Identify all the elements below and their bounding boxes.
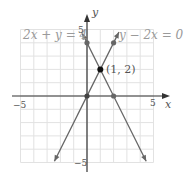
y-axis-label: y (91, 6, 99, 19)
y-max-label: 5 (78, 25, 84, 35)
intersection-point (97, 66, 103, 72)
x-axis-label: x (165, 98, 172, 111)
x-max-label: 5 (150, 98, 156, 108)
point-0-0 (84, 93, 89, 98)
x-min-label: −5 (13, 100, 27, 110)
y-min-label: −5 (74, 158, 88, 168)
point-2-4 (111, 40, 116, 45)
point-2-0 (111, 93, 116, 98)
y-axis-arrow-icon (84, 14, 90, 22)
graph: 2x + y = 4 y − 2x = 0 (1, 2) x y −5 5 5 … (0, 0, 187, 181)
eq2-label: y − 2x = 0 (118, 28, 184, 42)
intersection-label: (1, 2) (106, 63, 136, 76)
